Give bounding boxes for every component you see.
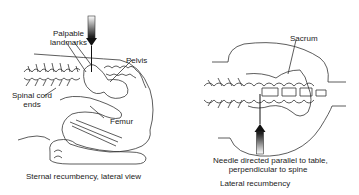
hind-paw <box>50 140 146 165</box>
right-diagram-lateral <box>204 40 346 156</box>
label-palpable-landmarks: Palpable landmarks <box>50 29 87 47</box>
label-line: ends <box>12 100 52 109</box>
label-spinal-cord-ends: Spinal cord ends <box>12 91 52 109</box>
label-sacrum: Sacrum <box>290 34 318 43</box>
femur-pointer <box>90 106 104 118</box>
label-pelvis: Pelvis <box>126 56 147 65</box>
label-femur: Femur <box>110 117 133 126</box>
tail-spine <box>104 66 146 88</box>
label-line: Palpable <box>50 29 87 38</box>
pelvis-shape <box>84 65 128 99</box>
caption-right: Lateral recumbency <box>220 179 290 188</box>
body-outline-bottom <box>218 106 346 156</box>
right-needle-icon <box>255 94 266 154</box>
label-line: landmarks <box>50 38 87 47</box>
label-line: Needle directed parallel to table, <box>213 156 323 165</box>
lumbar-spine-icon <box>24 63 80 86</box>
spine-dorsal-view-icon <box>204 78 326 108</box>
label-line: perpendicular to spine <box>213 165 323 174</box>
left-needle-icon <box>86 16 97 72</box>
label-line: Spinal cord <box>12 91 52 100</box>
label-needle-direction: Needle directed parallel to table, perpe… <box>213 156 323 174</box>
caption-left: Sternal recumbency, lateral view <box>26 172 141 181</box>
